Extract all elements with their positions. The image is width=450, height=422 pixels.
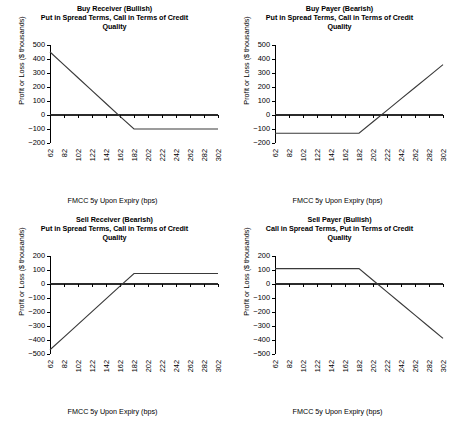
y-axis-tick-label: 0: [266, 110, 270, 119]
x-axis-tick-label: 62: [271, 360, 280, 368]
x-axis-tick-label: 122: [313, 149, 322, 161]
x-axis-tick-label: 102: [299, 149, 308, 161]
x-axis-tick-label: 262: [186, 360, 195, 372]
y-axis-tick-label: −400: [28, 335, 45, 344]
y-axis-tick-label: −100: [253, 124, 270, 133]
y-axis-tick-label: 500: [33, 40, 45, 49]
x-axis-tick-label: 262: [186, 149, 195, 161]
y-axis-tick-label: 0: [41, 279, 45, 288]
x-axis-tick-label: 282: [200, 360, 209, 372]
y-axis-label: Profit or Loss ($ thousands): [17, 222, 26, 322]
x-axis-tick-label: 122: [88, 149, 97, 161]
x-axis-tick-label: 142: [102, 360, 111, 372]
x-axis-tick-label: 82: [60, 360, 69, 368]
y-axis-label: Profit or Loss ($ thousands): [242, 222, 251, 322]
y-axis-tick-label: −100: [28, 293, 45, 302]
y-axis-label: Profit or Loss ($ thousands): [17, 11, 26, 111]
x-axis-tick-label: 282: [200, 149, 209, 161]
x-axis-tick-label: 62: [271, 149, 280, 157]
x-axis-tick-label: 162: [116, 149, 125, 161]
x-axis-tick-label: 222: [158, 149, 167, 161]
x-axis-tick-label: 162: [341, 149, 350, 161]
y-axis-tick-label: 200: [258, 251, 270, 260]
y-axis-tick-label: −200: [28, 307, 45, 316]
y-axis-tick-label: 0: [266, 279, 270, 288]
chart-panel-bottom-right: Sell Payer (Bullish)Call in Spread Terms…: [225, 211, 450, 422]
x-axis-tick-label: 82: [285, 360, 294, 368]
x-axis-label: FMCC 5y Upon Expiry (bps): [225, 407, 450, 416]
y-axis-tick-label: 200: [33, 251, 45, 260]
plot-area: −200−10001002003004005006282102122142162…: [0, 0, 225, 211]
x-axis-tick-label: 62: [46, 149, 55, 157]
x-axis-tick-label: 242: [172, 149, 181, 161]
y-axis-tick-label: 500: [258, 40, 270, 49]
y-axis-tick-label: −500: [28, 349, 45, 358]
chart-panel-top-right: Buy Payer (Bearish)Put in Spread Terms, …: [225, 0, 450, 211]
x-axis-tick-label: 302: [439, 149, 448, 161]
y-axis-tick-label: −200: [253, 138, 270, 147]
plot-area: −500−400−300−200−10001002006282102122142…: [225, 211, 450, 422]
y-axis-tick-label: −100: [28, 124, 45, 133]
x-axis-label: FMCC 5y Upon Expiry (bps): [225, 196, 450, 205]
y-axis-tick-label: 400: [258, 54, 270, 63]
chart-panel-top-left: Buy Receiver (Bullish)Put in Spread Term…: [0, 0, 225, 211]
x-axis-label: FMCC 5y Upon Expiry (bps): [0, 196, 225, 205]
x-axis-tick-label: 242: [397, 360, 406, 372]
y-axis-tick-label: 200: [33, 82, 45, 91]
x-axis-tick-label: 102: [74, 149, 83, 161]
x-axis-tick-label: 142: [327, 149, 336, 161]
y-axis-tick-label: −300: [28, 321, 45, 330]
y-axis-tick-label: 0: [41, 110, 45, 119]
x-axis-tick-label: 262: [411, 149, 420, 161]
y-axis-tick-label: −100: [253, 293, 270, 302]
x-axis-tick-label: 202: [144, 149, 153, 161]
plot-area: −200−10001002003004005006282102122142162…: [225, 0, 450, 211]
y-axis-tick-label: 400: [33, 54, 45, 63]
x-axis-tick-label: 122: [313, 360, 322, 372]
y-axis-tick-label: 200: [258, 82, 270, 91]
x-axis-tick-label: 222: [383, 360, 392, 372]
x-axis-tick-label: 162: [116, 360, 125, 372]
plot-area: −500−400−300−200−10001002006282102122142…: [0, 211, 225, 422]
y-axis-label: Profit or Loss ($ thousands): [242, 11, 251, 111]
x-axis-tick-label: 242: [397, 149, 406, 161]
x-axis-tick-label: 162: [341, 360, 350, 372]
y-axis-tick-label: −500: [253, 349, 270, 358]
y-axis-tick-label: 100: [33, 265, 45, 274]
x-axis-tick-label: 122: [88, 360, 97, 372]
x-axis-tick-label: 182: [355, 360, 364, 372]
figure-grid: Buy Receiver (Bullish)Put in Spread Term…: [0, 0, 450, 422]
x-axis-tick-label: 302: [439, 360, 448, 372]
x-axis-tick-label: 102: [74, 360, 83, 372]
y-axis-tick-label: −200: [253, 307, 270, 316]
x-axis-tick-label: 182: [130, 360, 139, 372]
x-axis-tick-label: 182: [355, 149, 364, 161]
y-axis-tick-label: 100: [33, 96, 45, 105]
payoff-line: [275, 269, 443, 339]
x-axis-tick-label: 202: [144, 360, 153, 372]
x-axis-tick-label: 222: [383, 149, 392, 161]
x-axis-tick-label: 282: [425, 360, 434, 372]
x-axis-tick-label: 142: [327, 360, 336, 372]
x-axis-tick-label: 262: [411, 360, 420, 372]
y-axis-tick-label: −400: [253, 335, 270, 344]
x-axis-label: FMCC 5y Upon Expiry (bps): [0, 407, 225, 416]
y-axis-tick-label: 300: [258, 68, 270, 77]
y-axis-tick-label: −200: [28, 138, 45, 147]
chart-panel-bottom-left: Sell Receiver (Bearish)Put in Spread Ter…: [0, 211, 225, 422]
y-axis-tick-label: 100: [258, 96, 270, 105]
payoff-line: [275, 65, 443, 134]
y-axis-tick-label: 300: [33, 68, 45, 77]
x-axis-tick-label: 202: [369, 360, 378, 372]
x-axis-tick-label: 82: [285, 149, 294, 157]
y-axis-tick-label: −300: [253, 321, 270, 330]
x-axis-tick-label: 302: [214, 149, 223, 161]
x-axis-tick-label: 202: [369, 149, 378, 161]
x-axis-tick-label: 302: [214, 360, 223, 372]
y-axis-tick-label: 100: [258, 265, 270, 274]
x-axis-tick-label: 82: [60, 149, 69, 157]
x-axis-tick-label: 242: [172, 360, 181, 372]
x-axis-tick-label: 282: [425, 149, 434, 161]
x-axis-tick-label: 102: [299, 360, 308, 372]
x-axis-tick-label: 142: [102, 149, 111, 161]
